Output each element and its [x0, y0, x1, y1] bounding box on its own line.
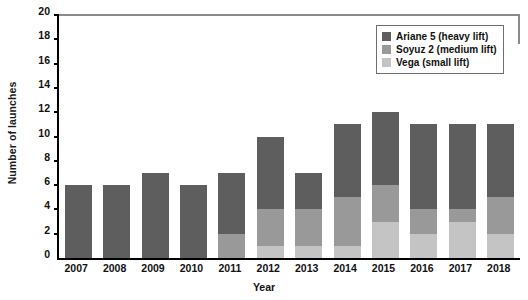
bar-segment[interactable] [180, 185, 207, 258]
y-axis-tick: 0 [29, 257, 59, 258]
y-axis-tick: 14 [29, 87, 59, 88]
bar-group[interactable] [295, 15, 322, 258]
legend-item-label: Ariane 5 (heavy lift) [396, 32, 488, 42]
y-axis-title-label: Number of launches [6, 81, 18, 184]
legend-item[interactable]: Soyuz 2 (medium lift) [382, 43, 497, 56]
y-axis-tick-label: 18 [38, 30, 50, 41]
stacked-bar-chart: Number of launches 02468101214161820 Ari… [0, 0, 528, 300]
y-axis-tick-label: 20 [38, 6, 50, 17]
bar-group[interactable] [334, 15, 361, 258]
bar-segment[interactable] [218, 234, 245, 258]
x-axis-tick-label: 2015 [364, 262, 402, 274]
legend-swatch-icon [382, 32, 391, 41]
bar-segment[interactable] [295, 173, 322, 209]
bar-group[interactable] [218, 15, 245, 258]
y-axis-tick: 16 [29, 63, 59, 64]
y-axis-tick-mark [54, 14, 59, 16]
y-axis-title: Number of launches [0, 0, 24, 265]
y-axis-tick-label: 0 [44, 249, 50, 260]
legend-item-label: Soyuz 2 (medium lift) [396, 45, 497, 55]
y-axis-tick-label: 10 [38, 128, 50, 139]
y-axis-tick: 20 [29, 14, 59, 15]
x-axis-tick-label: 2010 [172, 262, 210, 274]
x-axis-tick-label: 2008 [95, 262, 133, 274]
y-axis-tick-mark [54, 38, 59, 40]
y-axis-tick-mark [54, 208, 59, 210]
x-axis-tick-label: 2011 [211, 262, 249, 274]
bar-segment[interactable] [142, 173, 169, 258]
bar-segment[interactable] [410, 234, 437, 258]
bar-segment[interactable] [410, 124, 437, 209]
bar-segment[interactable] [295, 246, 322, 258]
legend-item[interactable]: Vega (small lift) [382, 56, 497, 69]
bar-segment[interactable] [334, 124, 361, 197]
bar-segment[interactable] [487, 197, 514, 233]
y-axis-tick-label: 12 [38, 103, 50, 114]
x-axis-tick-label: 2017 [441, 262, 479, 274]
bar-segment[interactable] [487, 124, 514, 197]
bar-segment[interactable] [449, 209, 476, 221]
x-axis-tick-label: 2012 [249, 262, 287, 274]
x-axis-title: Year [0, 281, 528, 293]
y-axis-tick-label: 2 [44, 225, 50, 236]
bar-group[interactable] [257, 15, 284, 258]
y-axis-tick: 18 [29, 38, 59, 39]
bar-segment[interactable] [103, 185, 130, 258]
bar-segment[interactable] [449, 124, 476, 209]
bar-group[interactable] [103, 15, 130, 258]
bar-segment[interactable] [257, 137, 284, 210]
legend-swatch-icon [382, 45, 391, 54]
y-axis-tick-mark [54, 184, 59, 186]
y-axis-tick-label: 14 [38, 79, 50, 90]
chart-legend: Ariane 5 (heavy lift)Soyuz 2 (medium lif… [376, 25, 504, 74]
y-axis-tick-mark [54, 136, 59, 138]
legend-swatch-icon [382, 58, 391, 67]
x-axis-tick-label: 2014 [326, 262, 364, 274]
y-axis-tick: 4 [29, 208, 59, 209]
bar-segment[interactable] [487, 234, 514, 258]
bar-group[interactable] [142, 15, 169, 258]
x-axis-tick-label: 2009 [134, 262, 172, 274]
y-axis-tick: 6 [29, 184, 59, 185]
bar-segment[interactable] [334, 246, 361, 258]
bar-segment[interactable] [257, 209, 284, 245]
y-axis-tick-label: 8 [44, 152, 50, 163]
bar-segment[interactable] [372, 112, 399, 185]
bar-segment[interactable] [218, 173, 245, 234]
legend-item[interactable]: Ariane 5 (heavy lift) [382, 30, 497, 43]
x-axis-tick-label: 2013 [288, 262, 326, 274]
bar-segment[interactable] [295, 209, 322, 245]
bar-segment[interactable] [334, 197, 361, 246]
bar-segment[interactable] [372, 185, 399, 221]
bar-segment[interactable] [65, 185, 92, 258]
legend-item-label: Vega (small lift) [396, 58, 469, 68]
x-axis-tick-label: 2016 [403, 262, 441, 274]
bar-segment[interactable] [449, 222, 476, 258]
bar-group[interactable] [180, 15, 207, 258]
x-axis-tick-label: 2007 [57, 262, 95, 274]
bar-segment[interactable] [410, 209, 437, 233]
y-axis-tick-mark [54, 63, 59, 65]
y-axis-tick: 2 [29, 233, 59, 234]
y-axis-tick-label: 6 [44, 176, 50, 187]
y-axis-tick-mark [54, 233, 59, 235]
y-axis-tick-label: 4 [44, 200, 50, 211]
y-axis-tick-mark [54, 160, 59, 162]
y-axis-tick-mark [54, 87, 59, 89]
y-axis-tick-label: 16 [38, 55, 50, 66]
bar-group[interactable] [65, 15, 92, 258]
x-axis-tick-label: 2018 [480, 262, 518, 274]
y-axis-tick-mark [54, 111, 59, 113]
y-axis-tick: 8 [29, 160, 59, 161]
bar-segment[interactable] [257, 246, 284, 258]
bar-segment[interactable] [372, 222, 399, 258]
y-axis-tick: 12 [29, 111, 59, 112]
y-axis-tick: 10 [29, 136, 59, 137]
